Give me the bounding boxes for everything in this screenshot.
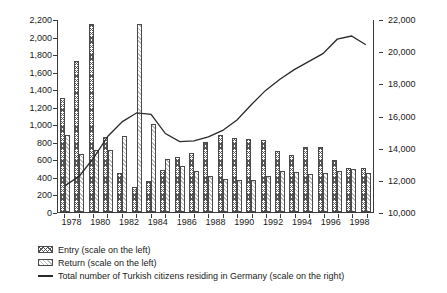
right-value-axis: 10,00012,00014,00016,00018,00020,00022,0… bbox=[378, 20, 438, 213]
category-axis-tick-mark bbox=[223, 214, 224, 218]
category-axis-label: 1988 bbox=[205, 217, 225, 227]
right-axis-tick-mark bbox=[379, 20, 383, 21]
right-axis-tick-label: 12,000 bbox=[388, 176, 416, 185]
left-axis-tick-label: 200 bbox=[37, 191, 52, 200]
category-axis-tick-mark bbox=[309, 214, 310, 218]
left-axis-tick-label: 1,400 bbox=[29, 86, 52, 95]
category-axis-label: 1986 bbox=[177, 217, 197, 227]
right-axis-tick-label: 18,000 bbox=[388, 80, 416, 89]
legend-item-total-line: Total number of Turkish citizens residin… bbox=[38, 269, 344, 282]
left-axis-tick-label: 400 bbox=[37, 173, 52, 182]
category-axis-label: 1984 bbox=[148, 217, 168, 227]
left-axis-tick-label: 800 bbox=[37, 138, 52, 147]
left-axis-tick-label: 2,200 bbox=[29, 16, 52, 25]
category-axis: 1978198019821984198619881990199219941996… bbox=[57, 215, 374, 231]
category-axis-label: 1998 bbox=[350, 217, 370, 227]
chart-figure: 02004006008001,0001,2001,4001,6001,8002,… bbox=[0, 0, 447, 293]
category-axis-label: 1982 bbox=[119, 217, 139, 227]
right-axis-tick-label: 16,000 bbox=[388, 112, 416, 121]
left-axis-tick-label: 1,000 bbox=[29, 121, 52, 130]
category-axis-tick-mark bbox=[165, 214, 166, 218]
right-axis-tick-label: 14,000 bbox=[388, 144, 416, 153]
right-axis-tick-mark bbox=[379, 181, 383, 182]
left-axis-tick-label: 1,800 bbox=[29, 51, 52, 60]
right-axis-tick-mark bbox=[379, 117, 383, 118]
left-axis-tick-label: 1,200 bbox=[29, 103, 52, 112]
category-axis-label: 1994 bbox=[292, 217, 312, 227]
category-axis-label: 1978 bbox=[61, 217, 81, 227]
plot-area bbox=[57, 20, 374, 213]
right-axis-tick-label: 10,000 bbox=[388, 209, 416, 218]
left-axis-tick-label: 600 bbox=[37, 156, 52, 165]
left-value-axis: 02004006008001,0001,2001,4001,6001,8002,… bbox=[6, 20, 52, 213]
left-axis-tick-label: 1,600 bbox=[29, 68, 52, 77]
category-axis-label: 1990 bbox=[234, 217, 254, 227]
legend-label-total-line: Total number of Turkish citizens residin… bbox=[58, 270, 344, 282]
category-axis-label: 1996 bbox=[321, 217, 341, 227]
category-axis-label: 1980 bbox=[90, 217, 110, 227]
left-axis-tick-mark bbox=[53, 213, 57, 214]
category-axis-tick-mark bbox=[367, 214, 368, 218]
category-axis-tick-mark bbox=[136, 214, 137, 218]
category-axis-tick-mark bbox=[79, 214, 80, 218]
chart-legend: Entry (scale on the left) Return (scale … bbox=[38, 243, 344, 282]
line-series-layer bbox=[58, 20, 373, 212]
category-axis-tick-mark bbox=[194, 214, 195, 218]
line-swatch-icon bbox=[38, 275, 53, 277]
category-axis-tick-mark bbox=[338, 214, 339, 218]
left-axis-tick-label: 2,000 bbox=[29, 33, 52, 42]
entry-swatch-icon bbox=[38, 246, 53, 253]
right-axis-tick-label: 20,000 bbox=[388, 48, 416, 57]
legend-item-return: Return (scale on the left) bbox=[38, 256, 344, 269]
right-axis-tick-mark bbox=[379, 84, 383, 85]
legend-item-entry: Entry (scale on the left) bbox=[38, 243, 344, 256]
legend-label-return: Return (scale on the left) bbox=[58, 257, 157, 269]
return-swatch-icon bbox=[38, 259, 53, 266]
right-axis-tick-mark bbox=[379, 149, 383, 150]
category-axis-tick-mark bbox=[280, 214, 281, 218]
right-axis-tick-mark bbox=[379, 52, 383, 53]
category-axis-tick-mark bbox=[252, 214, 253, 218]
category-axis-label: 1992 bbox=[263, 217, 283, 227]
total-citizens-line bbox=[65, 36, 366, 186]
left-axis-tick-label: 0 bbox=[47, 209, 52, 218]
category-axis-tick-mark bbox=[107, 214, 108, 218]
right-axis-tick-mark bbox=[379, 213, 383, 214]
right-axis-tick-label: 22,000 bbox=[388, 16, 416, 25]
legend-label-entry: Entry (scale on the left) bbox=[58, 244, 151, 256]
